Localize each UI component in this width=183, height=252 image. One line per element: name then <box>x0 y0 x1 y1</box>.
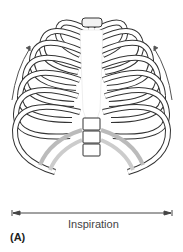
inspiration-caption: Inspiration <box>68 218 119 230</box>
rib-cage-diagram <box>0 0 183 252</box>
panel-label: (A) <box>10 231 25 243</box>
width-arrow-icon <box>12 210 172 216</box>
vertebrae <box>83 118 100 156</box>
sternum <box>80 18 103 122</box>
